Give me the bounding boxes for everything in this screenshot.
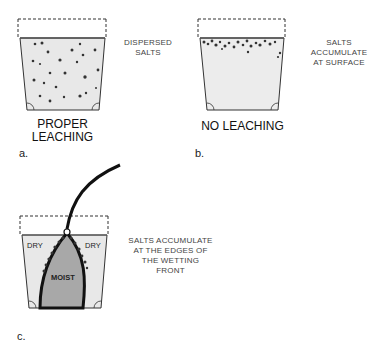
pot-a [18, 19, 106, 110]
caption-b: NO LEACHING [195, 120, 290, 133]
panel-letter-c: c. [17, 330, 26, 342]
note-c-line2: AT THE EDGES OF [128, 246, 213, 256]
drip-tube [67, 165, 120, 229]
caption-a-line2: LEACHING [20, 131, 105, 144]
note-a-line2: SALTS [118, 48, 178, 58]
note-b-line1: SALTS [305, 38, 373, 48]
note-a: DISPERSED SALTS [118, 38, 178, 58]
note-b: SALTS ACCUMULATE AT SURFACE [305, 38, 373, 68]
note-a-line1: DISPERSED [118, 38, 178, 48]
pot-b [198, 19, 285, 110]
label-dry-right: DRY [85, 241, 101, 250]
panel-letter-b: b. [195, 147, 204, 159]
label-moist: MOIST [51, 273, 75, 282]
label-dry-left: DRY [27, 241, 43, 250]
note-c: SALTS ACCUMULATE AT THE EDGES OF THE WET… [128, 236, 213, 276]
panel-letter-a: a. [19, 147, 28, 159]
note-c-line3: THE WETTING FRONT [128, 256, 213, 276]
emitter-icon [64, 229, 70, 235]
note-c-line1: SALTS ACCUMULATE [128, 236, 213, 246]
note-b-line3: AT SURFACE [305, 58, 373, 68]
pot-c [20, 165, 120, 308]
note-b-line2: ACCUMULATE [305, 48, 373, 58]
caption-a: PROPER LEACHING [20, 118, 105, 144]
